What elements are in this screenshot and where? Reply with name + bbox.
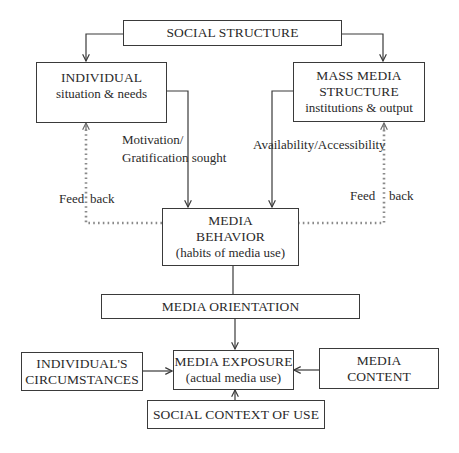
node-media-orientation-title: MEDIA ORIENTATION [162,299,299,315]
node-media-content-title-1: MEDIA [357,353,402,369]
label-feedback-right-b: back [389,188,414,204]
edge-social-to-individual [86,34,123,61]
node-individual-subtitle: situation & needs [56,86,147,102]
node-individuals-circumstances: INDIVIDUAL'S CIRCUMSTANCES [21,352,143,391]
label-feedback-left-a: Feed [59,191,84,207]
node-media-exposure-title: MEDIA EXPOSURE [174,354,292,370]
node-media-content-title-2: CONTENT [347,369,411,385]
node-individuals-circumstances-title-1: INDIVIDUAL'S [36,356,127,372]
label-feedback-left-b: back [90,191,115,207]
node-social-structure-title: SOCIAL STRUCTURE [167,25,299,41]
node-individuals-circumstances-title-2: CIRCUMSTANCES [25,372,139,388]
node-media-behavior-subtitle: (habits of media use) [176,245,285,261]
node-mass-media-structure: MASS MEDIA STRUCTURE institutions & outp… [293,62,425,122]
node-media-exposure-subtitle: (actual media use) [186,370,281,386]
node-mass-media-title-2: STRUCTURE [319,84,399,100]
label-feedback-right-a: Feed [350,188,375,204]
node-media-orientation: MEDIA ORIENTATION [101,294,360,319]
label-motivation-1: Motivation/ [122,132,183,148]
node-media-behavior-title-2: BEHAVIOR [196,229,265,245]
node-individual-title: INDIVIDUAL [61,70,142,86]
node-media-behavior-title-1: MEDIA [208,213,253,229]
node-social-context-of-use: SOCIAL CONTEXT OF USE [147,400,325,429]
node-mass-media-subtitle: institutions & output [305,100,413,116]
node-media-content: MEDIA CONTENT [319,348,439,389]
node-social-context-title: SOCIAL CONTEXT OF USE [153,407,319,423]
edge-individual-to-behavior [166,91,188,207]
node-individual: INDIVIDUAL situation & needs [36,62,167,123]
label-availability: Availability/Accessibility [253,137,386,153]
node-media-behavior: MEDIA BEHAVIOR (habits of media use) [162,208,299,266]
label-motivation-2: Gratification sought [122,150,226,166]
node-mass-media-title-1: MASS MEDIA [316,68,401,84]
edge-social-to-massmedia [342,34,383,61]
node-social-structure: SOCIAL STRUCTURE [123,20,342,46]
node-media-exposure: MEDIA EXPOSURE (actual media use) [173,350,294,390]
